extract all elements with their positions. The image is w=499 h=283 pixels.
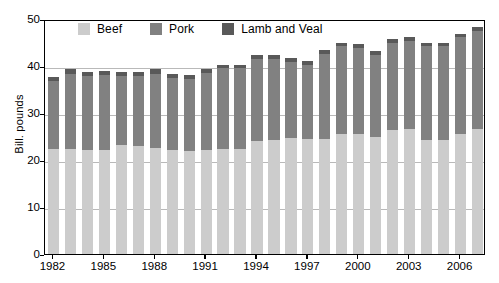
x-tick-label: 2006: [440, 261, 480, 273]
bar-column: [184, 75, 195, 254]
x-tick-mark: [255, 255, 256, 259]
bar-column: [268, 55, 279, 254]
legend-item: Lamb and Veal: [222, 22, 322, 36]
legend-label: Pork: [169, 22, 194, 36]
y-tick-label: 0: [14, 249, 40, 261]
legend-item: Beef: [78, 22, 122, 36]
bar-column: [201, 69, 212, 254]
chart-figure: Bill. pounds 01020304050 198219851988199…: [0, 0, 499, 283]
bar-segment-beef: [65, 149, 76, 254]
bar-segment-pork: [65, 74, 76, 149]
bar-segment-beef: [48, 149, 59, 254]
bar-column: [116, 72, 127, 254]
y-tick-label: 10: [14, 202, 40, 214]
bar-segment-beef: [82, 150, 93, 254]
bar-column: [251, 55, 262, 254]
x-tick-label: 2003: [389, 261, 429, 273]
x-tick-mark: [154, 255, 155, 259]
y-tick-label: 40: [14, 61, 40, 73]
x-tick-mark: [306, 255, 307, 259]
x-tick-mark: [103, 255, 104, 259]
bar-column: [150, 69, 161, 254]
bar-segment-beef: [201, 150, 212, 254]
x-tick-mark: [204, 255, 205, 259]
bar-segment-beef: [167, 150, 178, 254]
x-tick-label: 1994: [236, 261, 276, 273]
bar-column: [99, 71, 110, 254]
bar-segment-beef: [404, 129, 415, 254]
bar-segment-pork: [285, 62, 296, 138]
bar-segment-pork: [404, 41, 415, 129]
bar-series-group: [45, 21, 484, 254]
bar-segment-pork: [302, 65, 313, 139]
bar-column: [404, 37, 415, 254]
bar-column: [353, 44, 364, 254]
bar-column: [370, 51, 381, 254]
bar-column: [167, 74, 178, 254]
bar-segment-beef: [472, 129, 483, 254]
bar-segment-pork: [150, 74, 161, 149]
bar-segment-beef: [268, 140, 279, 254]
bar-segment-beef: [438, 140, 449, 254]
bar-segment-pork: [201, 73, 212, 150]
y-tick-label: 20: [14, 155, 40, 167]
x-tick-mark: [408, 255, 409, 259]
bar-segment-pork: [268, 59, 279, 140]
bar-segment-pork: [217, 68, 228, 149]
bar-segment-pork: [387, 43, 398, 131]
bar-column: [472, 27, 483, 254]
bar-segment-pork: [184, 79, 195, 151]
legend-label: Lamb and Veal: [241, 22, 322, 36]
bar-segment-beef: [319, 139, 330, 254]
bar-column: [133, 72, 144, 254]
bar-column: [455, 34, 466, 254]
bar-segment-pork: [48, 81, 59, 149]
legend-swatch-icon: [78, 23, 90, 35]
bar-column: [302, 61, 313, 254]
x-tick-label: 1988: [134, 261, 174, 273]
x-tick-label: 1982: [32, 261, 72, 273]
chart-legend: BeefPorkLamb and Veal: [78, 22, 323, 36]
bar-segment-beef: [455, 134, 466, 254]
x-tick-mark: [459, 255, 460, 259]
bar-column: [438, 43, 449, 254]
bar-segment-pork: [82, 76, 93, 149]
bar-segment-beef: [150, 148, 161, 254]
bar-segment-pork: [455, 37, 466, 134]
bar-segment-pork: [251, 59, 262, 141]
x-tick-label: 1985: [83, 261, 123, 273]
legend-item: Pork: [150, 22, 194, 36]
bar-segment-beef: [99, 150, 110, 254]
legend-label: Beef: [97, 22, 122, 36]
bar-column: [336, 43, 347, 254]
bar-column: [65, 69, 76, 254]
bar-segment-beef: [336, 134, 347, 254]
bar-segment-pork: [353, 48, 364, 134]
bar-segment-pork: [99, 75, 110, 149]
bar-segment-beef: [387, 130, 398, 254]
bar-column: [387, 39, 398, 254]
bar-column: [82, 72, 93, 254]
bar-column: [319, 50, 330, 254]
bar-column: [234, 65, 245, 254]
bar-column: [217, 65, 228, 254]
bar-segment-pork: [438, 46, 449, 140]
y-tick-label: 30: [14, 108, 40, 120]
bar-segment-pork: [336, 46, 347, 133]
bar-column: [48, 77, 59, 254]
bar-segment-beef: [116, 145, 127, 254]
bar-segment-beef: [302, 139, 313, 254]
bar-column: [421, 43, 432, 254]
x-tick-label: 1991: [185, 261, 225, 273]
bar-segment-pork: [167, 78, 178, 150]
bar-segment-pork: [319, 54, 330, 139]
y-tick-label: 50: [14, 14, 40, 26]
legend-swatch-icon: [222, 23, 234, 35]
bar-segment-beef: [217, 149, 228, 254]
bar-segment-beef: [285, 138, 296, 254]
x-tick-label: 2000: [338, 261, 378, 273]
bar-segment-beef: [184, 151, 195, 254]
bar-segment-pork: [116, 76, 127, 145]
bar-segment-pork: [421, 46, 432, 140]
bar-segment-pork: [234, 68, 245, 148]
